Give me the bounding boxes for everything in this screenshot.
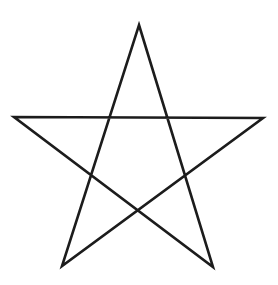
five-pointed-star-shape	[14, 25, 263, 267]
drawing-canvas	[0, 0, 278, 285]
star-svg	[0, 0, 278, 285]
